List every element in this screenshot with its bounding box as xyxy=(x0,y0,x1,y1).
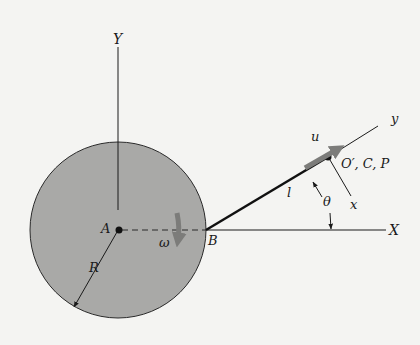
label-l: l xyxy=(287,185,291,200)
label-local-x: x xyxy=(350,197,358,212)
label-A: A xyxy=(100,221,110,236)
label-theta: θ xyxy=(323,194,331,209)
label-end-point: O′, C, P xyxy=(341,156,390,171)
theta-arrow-lower xyxy=(330,213,331,229)
theta-arrow-upper xyxy=(313,182,322,197)
label-R: R xyxy=(88,260,99,275)
label-X-axis: X xyxy=(388,222,400,238)
label-B: B xyxy=(207,233,218,248)
label-Y-axis: Y xyxy=(113,31,124,47)
label-local-y: y xyxy=(390,111,399,126)
kinematics-diagram: Y X A B ω R l θ u y x O′, C, P xyxy=(0,0,420,345)
label-u: u xyxy=(311,129,319,144)
angular-velocity-arrow xyxy=(177,213,179,240)
label-omega: ω xyxy=(159,235,170,250)
local-y-axis-line xyxy=(338,126,378,151)
